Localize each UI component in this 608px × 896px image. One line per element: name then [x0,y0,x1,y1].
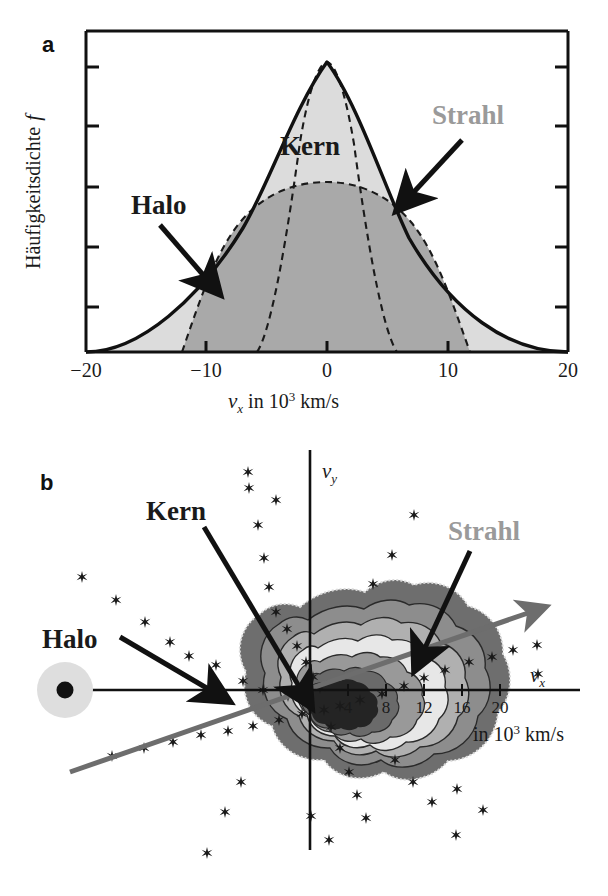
panel-a-letter: a [42,32,55,57]
x-tick-label-b-4: 20 [492,698,509,717]
annotation-halo-a: Halo [131,190,187,220]
x-tick-label-b-3: 16 [454,698,471,717]
x-tick-label-b-0: 4 [344,698,353,717]
annotation-strahl-a: Strahl [432,100,505,130]
annotation-strahl-b: Strahl [448,516,521,546]
x-axis-title-a-rest: in 10 [243,390,289,412]
panel-b-letter: b [40,470,53,495]
x-tick-label-a-2: 0 [322,359,332,381]
figure-root: a [0,0,608,896]
x-tick-label-a-4: 20 [558,359,578,381]
y-axis-label-b-sub: y [329,471,337,486]
x-axis-title-a-unit: km/s [295,390,339,412]
x-axis-title-a: vx in 103 km/s [228,389,339,416]
annotation-halo-b: Halo [42,624,98,654]
y-axis-title-a: Häufigkeitsdichtef [21,112,45,269]
x-tick-label-a-1: −10 [190,359,221,381]
source-disc-b [37,662,93,718]
unit-caption-b-suffix: km/s [520,723,564,745]
x-axis-label-b-sub: x [538,675,545,690]
x-tick-label-b-2: 12 [416,698,433,717]
svg-text:vx in 103 km/s: vx in 103 km/s [228,389,339,416]
annotation-kern-b: Kern [146,496,206,526]
x-tick-label-a-3: 10 [438,359,458,381]
svg-text:Häufigkeitsdichtef: Häufigkeitsdichtef [21,112,45,269]
unit-caption-b-prefix: in 10 [473,723,514,745]
y-axis-title-a-main: Häufigkeitsdichte [22,127,45,269]
x-tick-label-a-0: −20 [70,359,101,381]
x-tick-label-b-1: 8 [382,698,391,717]
annotation-kern-a: Kern [280,131,340,161]
